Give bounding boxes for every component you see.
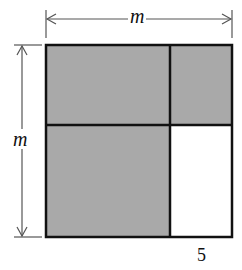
diagram-canvas <box>0 0 242 270</box>
region-bottom-right <box>170 125 232 237</box>
region-bottom-left <box>46 125 170 237</box>
region-top-right <box>170 45 232 125</box>
region-top-left <box>46 45 170 125</box>
left-dimension-label: m <box>11 129 29 149</box>
top-dimension-label: m <box>128 6 146 26</box>
corner-width-label: 5 <box>197 246 206 264</box>
